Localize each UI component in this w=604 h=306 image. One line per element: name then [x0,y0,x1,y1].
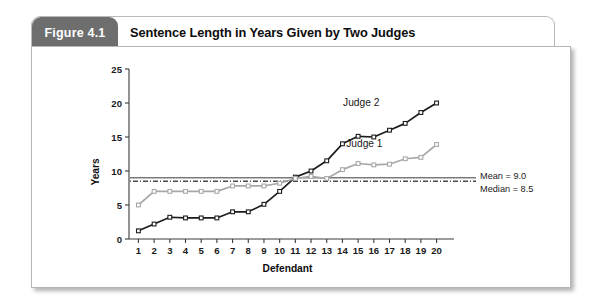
data-point-judge-1-6 [215,190,219,194]
data-point-judge-2-12 [309,169,313,173]
x-tick-label-1: 1 [136,245,142,256]
data-point-judge-2-5 [199,216,203,220]
data-point-judge-2-4 [184,216,188,220]
x-tick-label-4: 4 [183,245,189,256]
y-tick-label-0: 0 [117,234,122,245]
x-tick-label-7: 7 [230,245,235,256]
x-tick-label-16: 16 [368,245,379,256]
x-tick-label-5: 5 [199,245,205,256]
y-tick-label-25: 25 [111,64,122,75]
data-point-judge-1-14 [341,168,345,172]
series-line-judge-1 [138,144,436,205]
data-point-judge-1-9 [262,184,266,188]
data-point-judge-1-5 [199,190,203,194]
data-point-judge-1-7 [231,184,235,188]
figure-page: Figure 4.1 Sentence Length in Years Give… [0,0,604,306]
x-tick-label-17: 17 [384,245,395,256]
mean-annotation: Mean = 9.0 [480,171,526,181]
data-point-judge-2-13 [325,159,329,163]
y-axis-title: Years [90,158,101,186]
x-tick-label-19: 19 [416,245,427,256]
median-annotation: Median = 8.5 [480,184,533,194]
data-point-judge-2-10 [278,190,282,194]
x-tick-label-2: 2 [151,245,156,256]
data-point-judge-2-14 [341,142,345,146]
data-point-judge-2-18 [403,122,407,126]
data-point-judge-1-18 [403,157,407,161]
data-point-judge-1-3 [168,190,172,194]
data-point-judge-2-20 [435,101,439,105]
y-tick-label-10: 10 [111,166,122,177]
y-tick-label-15: 15 [111,132,122,143]
x-tick-label-9: 9 [261,245,266,256]
data-point-judge-2-6 [215,216,219,220]
x-axis-title: Defendant [263,263,313,274]
x-tick-label-12: 12 [306,245,317,256]
data-point-judge-1-4 [184,190,188,194]
x-tick-label-8: 8 [246,245,252,256]
data-point-judge-1-10 [278,181,282,185]
x-tick-label-3: 3 [167,245,172,256]
data-point-judge-2-1 [137,229,141,233]
data-point-judge-1-19 [419,156,423,160]
data-point-judge-2-2 [152,222,156,226]
x-tick-label-15: 15 [353,245,364,256]
figure-card: Figure 4.1 Sentence Length in Years Give… [31,16,571,288]
data-point-judge-1-12 [309,175,313,179]
data-point-judge-2-3 [168,215,172,219]
data-point-judge-2-17 [388,128,392,132]
data-point-judge-2-9 [262,202,266,206]
x-tick-label-20: 20 [431,245,442,256]
data-point-judge-1-16 [372,163,376,167]
series-label-judge-1: Judge 1 [346,138,383,149]
series-label-judge-2: Judge 2 [343,97,380,108]
figure-title: Sentence Length in Years Given by Two Ju… [130,17,415,48]
data-point-judge-1-8 [246,184,250,188]
figure-body: 0510152025Years1234567891011121314151617… [31,46,571,288]
x-tick-label-10: 10 [274,245,285,256]
y-tick-label-5: 5 [117,200,123,211]
figure-header: Figure 4.1 Sentence Length in Years Give… [31,16,555,47]
data-point-judge-1-2 [152,190,156,194]
data-point-judge-1-1 [137,203,141,207]
x-tick-label-14: 14 [337,245,348,256]
data-point-judge-1-13 [325,177,329,181]
series-line-judge-2 [138,103,436,231]
chart-plot-area: 0510152025Years1234567891011121314151617… [32,47,572,289]
x-tick-label-11: 11 [290,245,301,256]
figure-number-tag: Figure 4.1 [32,17,118,48]
x-tick-label-13: 13 [321,245,332,256]
data-point-judge-1-15 [356,162,360,166]
data-point-judge-2-19 [419,111,423,115]
data-point-judge-2-7 [231,210,235,214]
x-tick-label-6: 6 [214,245,219,256]
x-tick-label-18: 18 [400,245,411,256]
data-point-judge-1-20 [435,143,439,147]
y-tick-label-20: 20 [111,98,122,109]
line-chart: 0510152025Years1234567891011121314151617… [32,47,572,289]
data-point-judge-2-8 [246,210,250,214]
data-point-judge-1-17 [388,162,392,166]
data-point-judge-1-11 [293,177,297,181]
